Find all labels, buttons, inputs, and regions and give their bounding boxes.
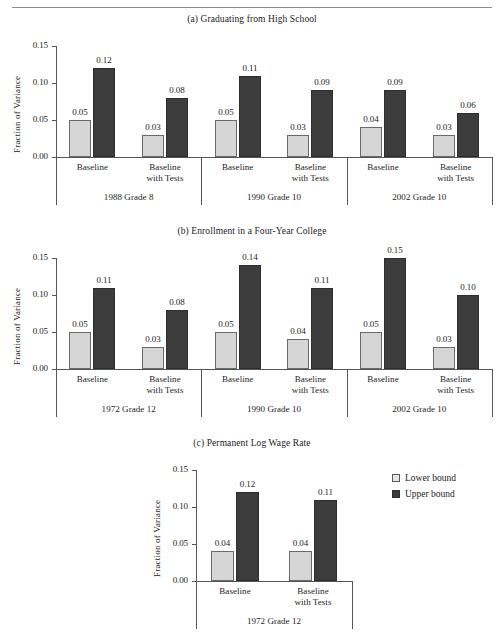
y-tick-label: 0.00 <box>20 151 48 161</box>
bar-value-label: 0.12 <box>85 55 123 65</box>
category-label: Baselinewith Tests <box>413 374 498 396</box>
y-axis-label-c: Fraction of Variance <box>152 500 162 577</box>
panel-title-b: (b) Enrollment in a Four-Year College <box>0 226 504 236</box>
bar-upper-bound <box>384 90 406 157</box>
x-axis-line-a <box>56 157 492 158</box>
bar-lower-bound <box>360 332 382 369</box>
bar-lower-bound <box>287 339 309 369</box>
category-label: Baselinewith Tests <box>268 586 358 608</box>
y-tick-label: 0.15 <box>20 40 48 50</box>
panel-title-c: (c) Permanent Log Wage Rate <box>0 438 504 448</box>
group-label: 1972 Grade 12 <box>196 616 352 626</box>
bar-lower-bound <box>69 332 91 369</box>
bar-lower-bound <box>215 332 237 369</box>
bar-value-label: 0.10 <box>449 282 487 292</box>
category-label: Baseline <box>190 586 280 597</box>
bar-upper-bound <box>457 113 479 157</box>
y-tick-label: 0.10 <box>20 289 48 299</box>
legend-swatch-lower-icon <box>392 474 400 482</box>
y-tick-mark <box>192 507 196 508</box>
y-tick-label: 0.05 <box>160 538 188 548</box>
y-tick-mark <box>52 332 56 333</box>
x-axis-line-b <box>56 369 492 370</box>
bar-value-label: 0.11 <box>231 63 269 73</box>
bar-value-label: 0.11 <box>306 487 345 497</box>
bar-value-label: 0.09 <box>303 77 341 87</box>
bar-upper-bound <box>166 98 188 157</box>
y-axis-label-a: Fraction of Variance <box>12 76 22 153</box>
bar-lower-bound <box>69 120 91 157</box>
bar-upper-bound <box>457 295 479 369</box>
group-label: 2002 Grade 10 <box>347 192 492 202</box>
legend-swatch-upper-icon <box>392 490 400 498</box>
bar-upper-bound <box>239 265 261 369</box>
x-axis-line-c <box>196 581 352 582</box>
bar-upper-bound <box>311 288 333 369</box>
legend-label: Lower bound <box>405 473 456 483</box>
bar-lower-bound <box>360 127 382 157</box>
panel-title-a: (a) Graduating from High School <box>0 14 504 24</box>
bar-lower-bound <box>211 551 234 581</box>
bar-value-label: 0.12 <box>228 479 267 489</box>
bar-upper-bound <box>384 258 406 369</box>
group-label: 1990 Grade 10 <box>201 404 346 414</box>
bar-upper-bound <box>239 76 261 157</box>
y-axis-line-c <box>196 470 197 582</box>
bar-lower-bound <box>142 347 164 369</box>
y-tick-mark <box>192 470 196 471</box>
y-tick-label: 0.05 <box>20 326 48 336</box>
y-tick-label: 0.00 <box>20 363 48 373</box>
legend-label: Upper bound <box>405 489 455 499</box>
bar-lower-bound <box>215 120 237 157</box>
legend-item-upper: Upper bound <box>392 484 456 500</box>
legend-item-lower: Lower bound <box>392 468 456 484</box>
y-axis-line-a <box>56 46 57 158</box>
bar-lower-bound <box>289 551 312 581</box>
y-tick-mark <box>52 120 56 121</box>
y-axis-label-b: Fraction of Variance <box>12 288 22 365</box>
bar-lower-bound <box>142 135 164 157</box>
group-label: 1988 Grade 8 <box>56 192 201 202</box>
bar-upper-bound <box>93 68 115 157</box>
y-tick-mark <box>52 46 56 47</box>
y-tick-label: 0.15 <box>20 252 48 262</box>
bar-value-label: 0.15 <box>376 245 414 255</box>
bar-lower-bound <box>287 135 309 157</box>
bar-value-label: 0.08 <box>158 85 196 95</box>
bar-lower-bound <box>433 347 455 369</box>
y-axis-line-b <box>56 258 57 370</box>
bar-value-label: 0.08 <box>158 297 196 307</box>
category-label: Baselinewith Tests <box>413 162 498 184</box>
group-label: 1990 Grade 10 <box>201 192 346 202</box>
bar-upper-bound <box>314 500 337 581</box>
y-tick-mark <box>52 258 56 259</box>
y-tick-mark <box>192 544 196 545</box>
y-tick-mark <box>52 295 56 296</box>
legend: Lower boundUpper bound <box>392 468 456 500</box>
y-tick-label: 0.10 <box>20 77 48 87</box>
bar-value-label: 0.06 <box>449 100 487 110</box>
bar-upper-bound <box>93 288 115 369</box>
bar-value-label: 0.11 <box>303 275 341 285</box>
bar-upper-bound <box>311 90 333 157</box>
y-tick-label: 0.10 <box>160 501 188 511</box>
y-tick-label: 0.05 <box>20 114 48 124</box>
y-tick-mark <box>52 83 56 84</box>
page-header-rule <box>12 7 492 8</box>
group-label: 1972 Grade 12 <box>56 404 201 414</box>
bar-value-label: 0.14 <box>231 252 269 262</box>
bar-upper-bound <box>166 310 188 369</box>
bar-lower-bound <box>433 135 455 157</box>
figure-page: { "figure": { "ylabel": "Fraction of Var… <box>0 0 504 633</box>
bar-value-label: 0.09 <box>376 77 414 87</box>
bar-upper-bound <box>236 492 259 581</box>
y-tick-label: 0.00 <box>160 575 188 585</box>
group-label: 2002 Grade 10 <box>347 404 492 414</box>
bar-value-label: 0.11 <box>85 275 123 285</box>
y-tick-label: 0.15 <box>160 464 188 474</box>
